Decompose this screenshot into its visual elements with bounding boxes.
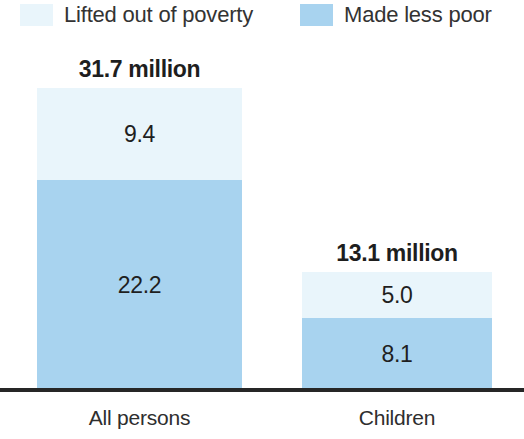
- bar-value-children-lifted: 5.0: [381, 282, 412, 309]
- category-label-all-persons: All persons: [37, 406, 242, 430]
- bar-stack-all-persons: 9.4 22.2: [37, 88, 242, 390]
- bar-value-all-persons-made-less-poor: 22.2: [118, 272, 162, 299]
- bar-segment-all-persons-made-less-poor[interactable]: 22.2: [37, 180, 242, 390]
- bar-segment-children-made-less-poor[interactable]: 8.1: [302, 318, 492, 390]
- plot-area: 31.7 million 9.4 22.2 All persons 13.1 m…: [0, 0, 524, 439]
- x-axis-line: [0, 388, 524, 392]
- bar-total-label-all-persons: 31.7 million: [37, 56, 242, 83]
- bar-group-all-persons[interactable]: 31.7 million 9.4 22.2 All persons: [37, 88, 242, 439]
- bar-stack-children: 5.0 8.1: [302, 272, 492, 390]
- bar-segment-all-persons-lifted[interactable]: 9.4: [37, 88, 242, 180]
- bar-group-children[interactable]: 13.1 million 5.0 8.1 Children: [302, 88, 492, 439]
- bar-value-all-persons-lifted: 9.4: [124, 121, 155, 148]
- bar-value-children-made-less-poor: 8.1: [381, 341, 412, 368]
- chart-container: Lifted out of poverty Made less poor 31.…: [0, 0, 524, 439]
- bar-segment-children-lifted[interactable]: 5.0: [302, 272, 492, 318]
- category-label-children: Children: [302, 406, 492, 430]
- bar-total-label-children: 13.1 million: [302, 240, 492, 267]
